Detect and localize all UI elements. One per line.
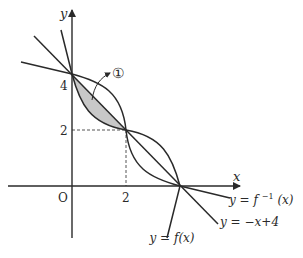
label-f-eq: = bbox=[160, 231, 170, 245]
label-f: y = f(x) bbox=[148, 231, 194, 245]
label-f-rhs: f(x) bbox=[173, 231, 195, 245]
label-f-inverse-lhs: y bbox=[228, 193, 236, 207]
label-line: y = −x+4 bbox=[219, 215, 279, 229]
curve-f bbox=[61, 30, 180, 238]
label-f-inverse: y = f −1 (x) bbox=[228, 188, 294, 207]
x-axis-label: x bbox=[233, 169, 241, 184]
label-line-rhs: −x+4 bbox=[245, 215, 280, 229]
function-graph: ① y x O 2 2 4 y = f −1 (x) y = −x+4 y = … bbox=[0, 0, 303, 258]
label-f-lhs: y bbox=[148, 231, 156, 245]
y-tick-4: 4 bbox=[60, 79, 68, 93]
label-line-lhs: y bbox=[219, 215, 227, 229]
label-f-inverse-arg: (x) bbox=[277, 193, 293, 207]
origin-label: O bbox=[58, 191, 68, 205]
region-pointer-arrow bbox=[92, 73, 110, 100]
label-f-inverse-eq: = bbox=[240, 193, 250, 207]
x-tick-2: 2 bbox=[122, 191, 130, 205]
label-f-inverse-base: f bbox=[253, 193, 261, 207]
label-line-eq: = bbox=[231, 215, 241, 229]
label-f-inverse-sup: −1 bbox=[262, 192, 274, 201]
y-tick-2: 2 bbox=[60, 124, 68, 138]
region-label: ① bbox=[112, 65, 125, 81]
y-axis-label: y bbox=[59, 6, 68, 21]
